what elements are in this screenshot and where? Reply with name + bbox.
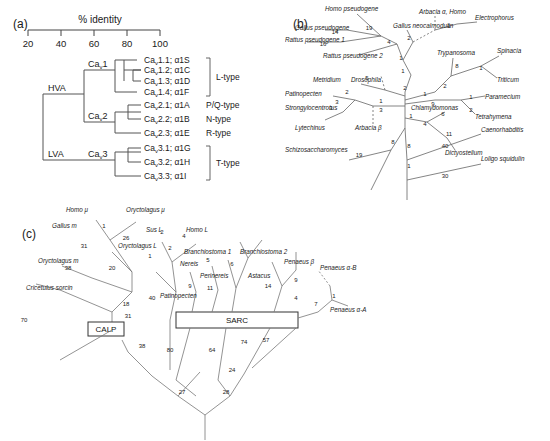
taxon-patinopecten: Patinopecten <box>285 90 322 98</box>
taxon-triticum: Triticum <box>497 76 519 83</box>
taxon-c-penaeus-alpha-a: Penaeus α-A <box>330 306 367 313</box>
taxon-c-patinopecten: Patinopecten <box>160 292 197 300</box>
panel-b-num-7: 1 <box>401 68 405 74</box>
leaf-0-rest: 1.1; α1S <box>158 55 190 65</box>
taxon-c-branchiostoma-2: Branchiostoma 2 <box>240 248 288 255</box>
taxon-c-oryctolagus-m: Oryctolagus m <box>38 257 79 265</box>
panel-c-num-4: 38 <box>65 265 72 271</box>
taxon-paramecium: Paramecium <box>485 93 520 100</box>
panel-b-num-1: 14 <box>332 29 339 35</box>
panel-c-num-20: 1 <box>332 293 336 299</box>
panel-c-num-0: 1 <box>102 223 106 229</box>
taxon-arbacia-beta: Arbacia β <box>354 124 382 132</box>
svg-text:Cav3.1; α1G: Cav3.1; α1G <box>144 143 191 154</box>
taxon-c-penaeus-beta: Penaeus β <box>284 258 315 266</box>
panel-c-num-10: 2 <box>168 245 172 251</box>
panel-b-num-31: 1 <box>379 98 383 104</box>
taxon-trypanosoma: Trypanosoma <box>437 49 476 57</box>
panel-b-num-21: 11 <box>446 131 453 137</box>
svg-text:Cav2.3; α1E: Cav2.3; α1E <box>144 128 190 139</box>
panel-c-num-13: 6 <box>230 261 234 267</box>
panel-b-num-2: 16 <box>320 41 327 47</box>
panel-c-num-24: 64 <box>209 347 216 353</box>
svg-text:Cav1: Cav1 <box>88 59 108 70</box>
svg-text:Cav2: Cav2 <box>88 111 108 122</box>
svg-text:Cav2.2; α1B: Cav2.2; α1B <box>144 114 190 125</box>
panel-c-num-3: 20 <box>109 265 116 271</box>
calp-box-label: CALP <box>96 325 117 334</box>
panel-b-num-15: 8 <box>455 63 459 69</box>
leaf-9-ca: Ca <box>144 171 155 181</box>
taxon-c-oryctolagus-l: Oryctolagus L <box>118 242 157 250</box>
leaf-5-rest: 2.2; α1B <box>158 114 190 124</box>
panel-c-num-26: 57 <box>263 337 270 343</box>
taxon-gallus-neocalmodulin: Gallus neocalmodulin <box>393 22 454 29</box>
brace-t-type <box>206 146 210 180</box>
panel-c-num-19: 7 <box>314 301 318 307</box>
taxon-lytechinus: Lytechinus <box>295 124 326 132</box>
leaf-2-ca: Ca <box>144 76 155 86</box>
leaf-3-rest: 1.4; α1F <box>158 87 189 97</box>
taxon-caenorhabditis: Caenorhabditis <box>481 126 524 133</box>
panel-a-axis: 20 40 60 80 100 % identity <box>23 14 168 49</box>
panel-c-num-16: 14 <box>265 283 272 289</box>
panel-a-leaf-7: Cav3.1; α1G <box>144 143 191 154</box>
cav1-num: 1 <box>103 59 108 69</box>
panel-a: (a) 20 40 60 80 100 % identity <box>0 0 285 200</box>
svg-text:Cav2.1; α1A: Cav2.1; α1A <box>144 100 190 111</box>
panel-c-num-9: 4 <box>182 233 186 239</box>
cav3-ca: Ca <box>88 149 100 159</box>
taxon-c-penaeus-alpha-b: Penaeus α-B <box>320 264 357 271</box>
panel-b-num-30: 3 <box>379 107 383 113</box>
taxon-c-astacus: Astacus <box>247 272 271 279</box>
panel-a-cav1-node: Cav1 <box>88 59 108 70</box>
taxon-tetrahymena: Tetrahymena <box>475 113 512 121</box>
figure-root: (a) 20 40 60 80 100 % identity <box>0 0 550 441</box>
panel-c-label: (c) <box>22 227 36 241</box>
taxon-c-homo-mu: Homo μ <box>66 206 89 214</box>
taxon-c-nereis: Nereis <box>180 260 199 267</box>
type-label-pq: P/Q-type <box>206 100 240 110</box>
type-label-t: T-type <box>216 158 240 168</box>
taxon-c-perinereis: Perinereis <box>200 272 229 279</box>
panel-c-num-15: 11 <box>207 285 214 291</box>
leaf-7-ca: Ca <box>144 143 155 153</box>
panel-a-leaf-8: Cav3.2; α1H <box>144 157 190 168</box>
taxon-homo-pseudogene: Homo pseudogene <box>325 5 379 13</box>
taxon-rattus-pseudogene-2: Rattus pseudogene 2 <box>323 52 383 60</box>
svg-text:Cav1.2; α1C: Cav1.2; α1C <box>144 65 190 76</box>
panel-c-num-7: 40 <box>149 295 156 301</box>
taxon-c-cricetulus-sorcin: Cricetulus sorcin <box>26 284 73 291</box>
axis-tick-20: 20 <box>23 38 34 49</box>
panel-c-num-17: 9 <box>294 277 298 283</box>
svg-text:Cav3: Cav3 <box>88 149 108 160</box>
sarc-box-label: SARC <box>226 316 248 325</box>
panel-c-num-18: 4 <box>294 295 298 301</box>
panel-b-num-27: 30 <box>442 173 449 179</box>
type-label-l: L-type <box>216 72 240 82</box>
panel-c-num-5: 70 <box>21 317 28 323</box>
taxon-chlamydomonas: Chlamydomonas <box>411 104 459 112</box>
panel-c: (c) <box>0 200 550 441</box>
taxon-dictyostelium: Dictyostelium <box>445 149 482 157</box>
leaf-3-ca: Ca <box>144 87 155 97</box>
panel-a-leaf-1: Cav1.2; α1C <box>144 65 190 76</box>
panel-c-num-2: 31 <box>81 243 88 249</box>
leaf-8-ca: Ca <box>144 157 155 167</box>
panel-a-axis-title: % identity <box>78 14 121 25</box>
panel-a-label: (a) <box>13 17 28 31</box>
brace-l-type <box>206 58 210 96</box>
panel-b-num-24: 8 <box>407 143 411 149</box>
taxon-gallus-pseudogene: Gallus pseudogene <box>295 24 350 32</box>
panel-a-cav2-node: Cav2 <box>88 111 108 122</box>
leaf-6-rest: 2.3; α1E <box>158 128 190 138</box>
cav2-num: 2 <box>103 111 108 121</box>
panel-b-num-29: 1 <box>407 163 411 169</box>
leaf-7-rest: 3.1; α1G <box>158 143 191 153</box>
axis-tick-100: 100 <box>152 38 168 49</box>
leaf-2-rest: 1.3; α1D <box>158 76 190 86</box>
panel-b-num-13: 2 <box>443 83 447 89</box>
panel-a-leaf-3: Cav1.4; α1F <box>144 87 189 98</box>
panel-c-num-21: 31 <box>125 313 132 319</box>
leaf-4-rest: 2.1; α1A <box>158 100 190 110</box>
